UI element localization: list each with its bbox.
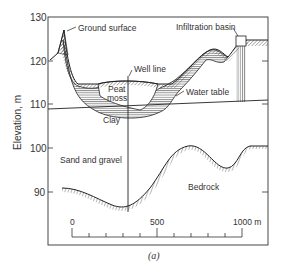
label-bedrock: Bedrock	[188, 182, 220, 192]
y-axis-label: Elevation, m	[12, 95, 23, 150]
label-sand-gravel: Sand and gravel	[60, 155, 122, 165]
scale-tick-0: 0	[70, 217, 75, 227]
y-axis-ticks	[48, 61, 268, 192]
y-tick-110: 110	[30, 99, 46, 110]
label-infiltration-basin: Infiltration basin	[176, 22, 236, 32]
y-tick-130: 130	[30, 12, 47, 23]
y-tick-100: 100	[30, 143, 47, 154]
label-water-table: Water table	[186, 87, 229, 97]
label-ground-surface: Ground surface	[78, 23, 137, 33]
y-tick-120: 120	[30, 56, 47, 67]
basin-ground-layer	[246, 40, 268, 46]
cross-section-diagram: 130 120 110 100 90 Elevation, m Ground s…	[0, 0, 283, 278]
y-tick-90: 90	[34, 187, 46, 198]
label-well-line: Well line	[134, 64, 166, 74]
scale-tick-500: 500	[150, 217, 164, 227]
scale-tick-1000: 1000 m	[233, 217, 261, 227]
ground-surface-line	[50, 30, 268, 84]
infiltration-basin	[236, 36, 246, 46]
label-moss: moss	[107, 93, 127, 103]
peak-fill	[58, 30, 68, 55]
scale-bar	[72, 228, 242, 237]
figure-caption: (a)	[148, 250, 160, 262]
label-clay: Clay	[103, 115, 121, 125]
infiltration-stripes	[236, 46, 246, 102]
